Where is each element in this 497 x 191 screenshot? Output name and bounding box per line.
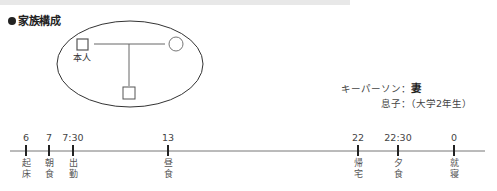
keyperson-note: キーパーソン：妻 xyxy=(341,80,421,95)
tick-time: 0 xyxy=(451,132,457,143)
tick-event: 朝食 xyxy=(44,158,54,180)
tick-event: 出勤 xyxy=(68,158,78,180)
tick-event: 起床 xyxy=(21,158,31,180)
tick-time: 6 xyxy=(23,132,29,143)
keyperson-label: キーパーソン： xyxy=(341,83,411,94)
tick-event: 帰宅 xyxy=(353,158,363,180)
son-square-icon xyxy=(123,87,135,99)
tick-event: 昼食 xyxy=(163,158,173,180)
tick-time: 22 xyxy=(352,132,364,143)
self-square-icon xyxy=(77,39,88,50)
spouse-circle-icon xyxy=(169,37,183,51)
tick-time: 7 xyxy=(46,132,52,143)
son-note: 息子：（大学2年生） xyxy=(381,96,472,110)
tick-time: 13 xyxy=(162,132,174,143)
tick-event: 就寝 xyxy=(449,158,459,180)
tick-time: 22:30 xyxy=(384,132,411,143)
family-boundary xyxy=(57,21,203,107)
tick-event: 夕食 xyxy=(393,158,403,180)
self-label: 本人 xyxy=(73,51,91,64)
keyperson-value: 妻 xyxy=(411,82,421,94)
tick-time: 7:30 xyxy=(62,132,83,143)
